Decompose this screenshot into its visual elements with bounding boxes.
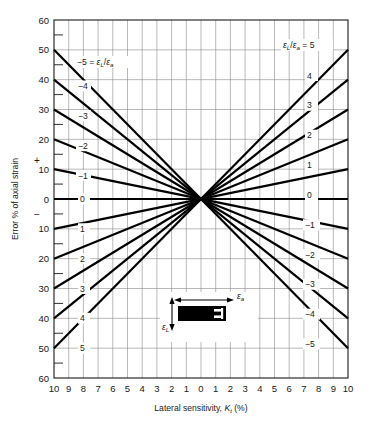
x-axis-title: Lateral sensitivity, Kt (%) [154,403,247,414]
x-tick-label: 6 [287,383,292,394]
y-tick-label: 40 [38,74,49,85]
curve-label-left: −2 [78,141,88,151]
curve-label-left: 5 [80,343,85,353]
x-tick-label: 0 [198,383,203,394]
curve-label-right: −5 [305,339,315,349]
curve-label-left: 0 [80,194,85,204]
curve-label-left: 1 [80,224,85,234]
y-negative-sign: − [34,209,40,220]
x-tick-label: 7 [301,383,306,394]
curve-label-left: −4 [78,81,88,91]
gauge-body [178,306,226,321]
curve-label-left: −3 [78,111,88,121]
x-tick-label: 2 [169,383,174,394]
curve-label-left: −1 [78,171,88,181]
y-tick-label: 10 [38,164,49,175]
x-tick-label: 5 [125,383,130,394]
curve-label-right: 4 [307,71,312,81]
x-tick-label: 6 [110,383,115,394]
curve-label-left: 2 [80,254,85,264]
error-vs-lateral-sensitivity-chart: 60 50 40 30 20 10 0 10 20 30 40 50 60 10… [0,0,370,426]
curve-label-right: 1 [307,160,312,170]
x-tick-label: 8 [81,383,86,394]
curve-label-right: −2 [305,250,315,260]
gauge-terminal-bar [221,308,223,319]
curve-label-right: −3 [305,279,315,289]
x-tick-label: 8 [316,383,321,394]
y-tick-label: 50 [38,44,49,55]
y-tick-label: 20 [38,253,49,264]
y-tick-label: 50 [38,343,49,354]
y-tick-label: 10 [38,223,49,234]
y-axis-title: Error % of axial strain [10,158,20,240]
x-tick-label: 10 [343,383,354,394]
x-tick-label: 1 [184,383,189,394]
chart-figure: 60 50 40 30 20 10 0 10 20 30 40 50 60 10… [0,0,370,426]
annotation-top-right: εL/εa = 5 [281,39,333,51]
x-tick-label: 3 [242,383,247,394]
y-tick-label: 0 [44,194,49,205]
y-tick-label: 20 [38,134,49,145]
annotation-top-left-label: −5 = εL/εa [77,57,114,68]
y-tick-label: 30 [38,104,49,115]
y-tick-label: 30 [38,283,49,294]
y-positive-sign: + [34,155,40,166]
x-tick-label: 4 [140,383,145,394]
x-tick-label: 1 [213,383,218,394]
y-tick-label: 40 [38,313,49,324]
curve-label-right: 3 [307,100,312,110]
curve-label-right: 0 [307,190,312,200]
x-tick-label: 3 [154,383,159,394]
x-tick-label: 9 [66,383,71,394]
x-tick-label: 9 [331,383,336,394]
strain-gauge-inset: εa εL [160,291,258,342]
x-tick-label: 2 [228,383,233,394]
x-tick-label: 5 [272,383,277,394]
x-tick-label: 7 [95,383,100,394]
curve-label-right: 2 [307,130,312,140]
y-tick-label: 60 [38,373,49,384]
curve-label-left: 4 [80,313,85,323]
x-tick-label: 10 [49,383,60,394]
curve-label-right: −1 [305,220,315,230]
curve-label-left: 3 [80,284,85,294]
x-tick-label: 4 [257,383,262,394]
annotation-top-left: −5 = εL/εa [75,56,131,68]
curve-label-right: −4 [305,309,315,319]
y-tick-label: 60 [38,15,49,26]
